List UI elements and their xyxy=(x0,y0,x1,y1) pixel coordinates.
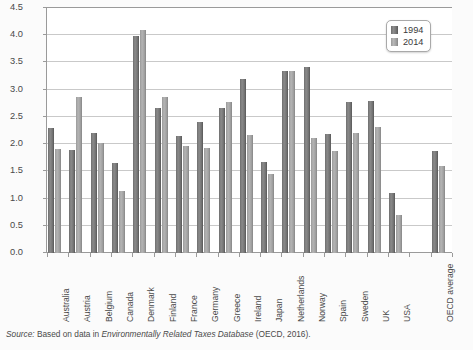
bar-1994 xyxy=(176,136,182,253)
bar-1994 xyxy=(155,108,161,253)
bar-1994 xyxy=(48,128,54,253)
x-tick-label: USA xyxy=(402,304,412,322)
bar-1994 xyxy=(368,101,374,253)
y-tick-label: 4.0 xyxy=(0,29,23,39)
bar-2014 xyxy=(204,148,210,253)
bar-2014 xyxy=(98,143,104,253)
bar-2014 xyxy=(247,135,253,253)
y-tick-label: 1.0 xyxy=(0,193,23,203)
bar-2014 xyxy=(439,166,445,253)
bar-2014 xyxy=(140,30,146,253)
y-tick-label: 2.0 xyxy=(0,138,23,148)
bar-2014 xyxy=(353,133,359,253)
source-database-title: Environmentally Related Taxes Database xyxy=(101,329,253,339)
bar-group xyxy=(345,8,366,253)
bar-group xyxy=(303,8,324,253)
x-tick-label: Canada xyxy=(125,292,135,322)
bar-group xyxy=(260,8,281,253)
bar-2014 xyxy=(268,174,274,253)
y-tick-label: 0.5 xyxy=(0,220,23,230)
legend-item-2014[interactable]: 2014 xyxy=(391,36,423,48)
legend-swatch-2014 xyxy=(391,38,398,46)
x-tick-label: Austria xyxy=(82,295,92,322)
x-tick-label: Belgium xyxy=(104,291,114,322)
bar-1994 xyxy=(389,193,395,253)
chart-figure: % of GDP 4.54.03.53.02.52.01.51.00.50.0 … xyxy=(0,0,473,350)
bar-1994 xyxy=(197,122,203,253)
bar-group xyxy=(367,8,388,253)
bar-group xyxy=(239,8,260,253)
bar-1994 xyxy=(346,102,352,253)
y-tick-label: 3.0 xyxy=(0,84,23,94)
bar-1994 xyxy=(219,108,225,253)
y-tick-label: 2.5 xyxy=(0,111,23,121)
bar-1994 xyxy=(325,134,331,253)
bar-group xyxy=(175,8,196,253)
legend-item-1994[interactable]: 1994 xyxy=(391,24,423,36)
x-tick-label: Netherlands xyxy=(296,276,306,322)
bar-2014 xyxy=(332,151,338,253)
x-tick-label: UK xyxy=(381,310,391,322)
bar-1994 xyxy=(91,133,97,253)
bar-group xyxy=(154,8,175,253)
bar-group xyxy=(281,8,302,253)
bar-2014 xyxy=(375,127,381,253)
bar-group xyxy=(68,8,89,253)
x-tick-label: Sweden xyxy=(360,291,370,322)
bar-group xyxy=(47,8,68,253)
source-note: Source: Based on data in Environmentally… xyxy=(6,329,311,339)
legend-swatch-1994 xyxy=(391,26,398,34)
bar-2014 xyxy=(183,146,189,253)
x-tick-label: Norway xyxy=(317,293,327,322)
x-tick-label: Finland xyxy=(168,294,178,322)
x-tick-label: France xyxy=(189,295,199,322)
bar-1994 xyxy=(133,36,139,253)
x-tick-label: OECD average xyxy=(445,264,455,322)
x-tick-label: Spain xyxy=(338,300,348,322)
bar-1994 xyxy=(282,71,288,253)
bar-1994 xyxy=(432,151,438,253)
bar-2014 xyxy=(76,97,82,253)
x-tick-mark xyxy=(452,253,453,257)
bar-2014 xyxy=(396,215,402,253)
y-tick-label: 0.0 xyxy=(0,247,23,257)
x-axis-labels: AustraliaAustriaBelgiumCanadaDenmarkFinl… xyxy=(47,256,452,324)
chart-title xyxy=(0,0,473,1)
bar-group xyxy=(90,8,111,253)
bar-1994 xyxy=(240,79,246,253)
source-middle: Based on data in xyxy=(35,329,102,339)
bar-1994 xyxy=(261,162,267,253)
bar-1994 xyxy=(112,163,118,253)
bar-group xyxy=(196,8,217,253)
y-tick-label: 4.5 xyxy=(0,2,23,12)
bar-2014 xyxy=(226,102,232,253)
bar-group xyxy=(431,8,452,253)
y-tick-label: 1.5 xyxy=(0,165,23,175)
x-tick-label: Denmark xyxy=(146,287,156,322)
bar-group xyxy=(132,8,153,253)
bar-2014 xyxy=(162,97,168,253)
x-tick-label: Ireland xyxy=(253,296,263,322)
x-tick-label: Australia xyxy=(61,289,71,322)
bar-2014 xyxy=(289,71,295,253)
y-tick-label: 3.5 xyxy=(0,56,23,66)
bar-group xyxy=(218,8,239,253)
bar-2014 xyxy=(311,138,317,253)
legend-label-2014: 2014 xyxy=(403,37,423,47)
x-tick-label: Japan xyxy=(274,299,284,322)
source-suffix: (OECD, 2016). xyxy=(253,329,310,339)
source-prefix: Source: xyxy=(6,329,35,339)
bar-1994 xyxy=(304,67,310,253)
legend-label-1994: 1994 xyxy=(403,25,423,35)
x-tick-label: Germany xyxy=(210,287,220,322)
bar-1994 xyxy=(69,150,75,253)
chart-legend: 1994 2014 xyxy=(386,20,431,52)
bar-group xyxy=(324,8,345,253)
bar-2014 xyxy=(119,191,125,253)
bar-2014 xyxy=(55,149,61,253)
x-tick-label: Greece xyxy=(232,294,242,322)
bar-group xyxy=(111,8,132,253)
